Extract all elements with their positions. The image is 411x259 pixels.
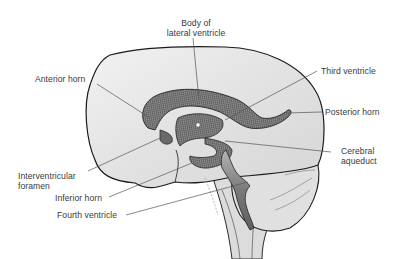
label-cerebral-aqueduct: Cerebral aqueduct (341, 146, 377, 166)
label-line: Cerebral (341, 146, 377, 156)
label-line: foramen (18, 181, 76, 191)
label-fourth-ventricle: Fourth ventricle (57, 210, 117, 220)
label-body-of-lateral-ventricle: Body of lateral ventricle (158, 18, 234, 38)
label-inferior-horn: Inferior horn (55, 193, 102, 203)
label-third-ventricle: Third ventricle (321, 66, 376, 76)
label-posterior-horn: Posterior horn (325, 107, 380, 117)
label-line: lateral ventricle (158, 28, 234, 38)
label-anterior-horn: Anterior horn (35, 74, 85, 84)
label-line: Body of (158, 18, 234, 28)
brain-illustration (0, 0, 411, 259)
label-interventricular-foramen: Interventricular foramen (18, 171, 76, 191)
label-line: aqueduct (341, 156, 377, 166)
ventricles-diagram: Body of lateral ventricle Anterior horn … (0, 0, 411, 259)
label-line: Interventricular (18, 171, 76, 181)
